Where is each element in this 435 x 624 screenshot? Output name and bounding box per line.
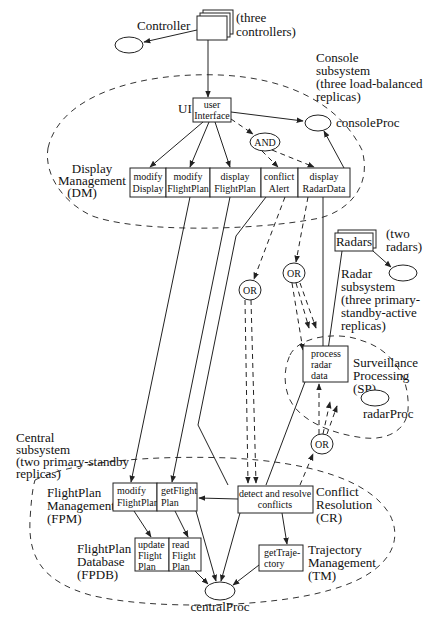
central-proc-ellipse[interactable] (205, 582, 235, 600)
ui-to-and-arrow (231, 119, 253, 134)
ui-to-modify-display-arrow (150, 122, 203, 167)
central-subsystem-label-4: replicas) (16, 466, 61, 481)
radar-proc-ellipse[interactable] (361, 390, 389, 406)
fpm-cell-getflightplan[interactable]: getFlight Plan (157, 483, 197, 511)
controller-note-2: controllers) (236, 24, 296, 39)
fpm-cell-text: getFlight (161, 485, 197, 496)
fpm-label-3: (FPM) (47, 511, 82, 526)
or-left-to-cr-arrow-2 (251, 300, 256, 483)
or-label: OR (287, 268, 301, 279)
fpdb-cell-text: read (172, 539, 189, 550)
or-middle-to-process-arrow-1 (292, 283, 303, 350)
conflict-alert-to-cr-line (198, 197, 266, 485)
dm-cell-conflict-alert[interactable]: conflict Alert (261, 168, 298, 197)
conflict-alert-to-or-left-arrow (254, 197, 285, 279)
user-interface-text-2: Interface (194, 110, 230, 121)
or-label: OR (243, 285, 257, 296)
dm-label-3: (DM) (67, 185, 97, 200)
cr-label-3: (CR) (316, 510, 342, 525)
dm-cell-text: modify (174, 171, 203, 182)
fpdb-cell-text: Flight (172, 550, 196, 561)
user-interface-text: user (204, 99, 221, 110)
fpm-modify-to-update-arrow (134, 511, 151, 537)
fpm-cell-text: FlightPlan (117, 497, 159, 508)
detect-resolve-text-2: conflicts (258, 499, 293, 510)
cr-to-tm-arrow (282, 513, 287, 544)
fpdb-cell-text: update (138, 539, 165, 550)
cr-to-or-bottom-arrow (300, 454, 313, 485)
fpm-cell-text: Plan (161, 497, 179, 508)
fpdb-cell-text: Flight (138, 550, 162, 561)
fpm-cell-modify-flightplan[interactable]: modify FlightPlan (113, 483, 159, 511)
radars-to-process-line (328, 251, 342, 350)
controller-label: Controller (137, 18, 191, 33)
dm-cell-text: Display (132, 183, 163, 194)
ui-label: UI (178, 101, 192, 116)
fpdb-label-3: (FPDB) (77, 567, 118, 582)
fpdb-cell-read-flightplan[interactable]: read Flight Plan (169, 538, 201, 572)
cr-to-getflightplan-arrow (199, 498, 238, 499)
ui-to-modify-flightplan-arrow (190, 122, 209, 167)
radardata-to-consoleproc-arrow (324, 131, 344, 168)
radars-note-2: radars) (386, 239, 422, 254)
tm-label-3: (TM) (308, 568, 336, 583)
process-radar-data-text-3: data (311, 370, 328, 381)
architecture-diagram: Controller (three controllers) Console s… (0, 0, 435, 624)
controller-box[interactable] (197, 16, 227, 40)
dm-cell-text: conflict (264, 171, 295, 182)
dm-cell-text: Alert (269, 183, 290, 194)
ui-to-display-flightplan-arrow (215, 122, 230, 167)
radar-subsystem-label-5: replicas) (341, 318, 386, 333)
or-left-to-cr-arrow-1 (245, 300, 248, 483)
controller-proc-ellipse[interactable] (115, 37, 143, 53)
dm-cell-modify-display[interactable]: modify Display (130, 168, 166, 197)
ui-to-consoleproc-arrow (231, 112, 303, 121)
dm-cell-display-radardata[interactable]: display RadarData (298, 168, 350, 197)
detect-resolve-text: detect and resolve (239, 488, 312, 499)
console-subsystem-label-4: replicas) (316, 89, 361, 104)
dm-cell-text: FlightPlan (167, 183, 209, 194)
radar-proc-label: radarProc (363, 406, 414, 421)
process-radar-data-text-2: radar (311, 359, 332, 370)
read-to-centralproc-arrow (195, 571, 208, 584)
console-proc-ellipse[interactable] (305, 115, 331, 131)
or-bottom-to-process-arrow-3 (327, 406, 337, 434)
dm-cell-display-flightplan[interactable]: display FlightPlan (210, 168, 261, 197)
dm-cell-text: modify (134, 171, 163, 182)
fpm-get-to-read-arrow (175, 511, 188, 537)
and-to-conflict-alert-arrow (262, 151, 278, 167)
fpm-cell-text: modify (117, 485, 146, 496)
and-label: AND (254, 137, 276, 148)
dm-cell-text: display (310, 171, 339, 182)
process-radar-data-text: process (311, 348, 341, 359)
tm-to-centralproc-arrow (233, 565, 259, 585)
dm-cell-modify-flightplan[interactable]: modify FlightPlan (166, 168, 210, 197)
dm-cell-text: display (221, 171, 250, 182)
or-middle-to-process-arrow-3 (300, 283, 316, 328)
console-proc-label: consoleProc (336, 115, 400, 130)
get-trajectory-text-2: ctory (264, 558, 285, 569)
process-to-cr-line (266, 382, 305, 485)
dm-cell-text: RadarData (303, 183, 346, 194)
fpdb-cell-text: Plan (138, 561, 156, 572)
central-proc-label: centralProc (190, 599, 249, 614)
and-to-radardata-arrow (272, 150, 314, 167)
dm-cell-text: FlightPlan (214, 183, 256, 194)
radars-label: Radars (336, 234, 372, 249)
or-label: OR (315, 439, 329, 450)
fpdb-cell-update-flightplan[interactable]: update Flight Plan (135, 538, 169, 572)
cr-to-centralproc-arrow (221, 513, 240, 581)
radardata-to-or-middle-arrow (296, 197, 308, 262)
fpdb-cell-text: Plan (172, 561, 190, 572)
get-trajectory-text: getTraje- (264, 547, 300, 558)
controller-note: (three (236, 10, 267, 25)
